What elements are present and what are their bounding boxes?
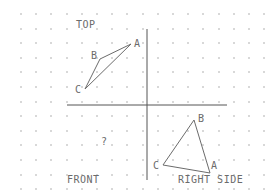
grid-dot [81,57,83,59]
grid-dot [142,188,144,190]
grid-dot [142,130,144,132]
grid-dot [142,13,144,15]
top-vertex-label-a: A [134,39,140,49]
grid-dot [126,115,128,117]
grid-dot [248,115,250,117]
grid-dot [35,71,37,73]
grid-dot [263,71,265,73]
grid-dot [172,71,174,73]
top-view-label: TOP [76,20,96,30]
grid-dot [157,86,159,88]
grid-dot [111,159,113,161]
grid-dot [157,101,159,103]
grid-dot [96,144,98,146]
grid-dot [142,159,144,161]
grid-dot [263,144,265,146]
grid-dot [172,86,174,88]
grid-dot [218,101,220,103]
grid-dot [248,188,250,190]
grid-dot [111,188,113,190]
grid-dot [233,13,235,15]
grid-dot [218,86,220,88]
grid-dot [248,28,250,30]
grid-dot [233,130,235,132]
grid-dot [111,130,113,132]
grid-dot [202,71,204,73]
grid-dot [187,144,189,146]
grid-dot [50,57,52,59]
grid-dot [35,188,37,190]
grid-dot [35,42,37,44]
grid-dot [248,86,250,88]
grid-dot [20,13,22,15]
grid-dot [20,174,22,176]
grid-dot [218,57,220,59]
grid-dot [233,159,235,161]
grid-dot [142,28,144,30]
grid-dot [50,144,52,146]
grid-dot [96,188,98,190]
grid-dot [218,42,220,44]
grid-dot [157,130,159,132]
grid-dot [50,86,52,88]
grid-dot [111,13,113,15]
grid-dot [126,101,128,103]
grid-dot [233,144,235,146]
grid-dot [126,71,128,73]
grid-dot [96,86,98,88]
grid-dot [66,188,68,190]
grid-dot [248,144,250,146]
top-vertex-label-c: C [75,85,81,95]
grid-dot [233,115,235,117]
grid-dot [187,188,189,190]
grid-dot [111,101,113,103]
grid-dot [202,86,204,88]
grid-dot [126,174,128,176]
grid-dot [172,101,174,103]
grid-dot [111,57,113,59]
front-view-label: FRONT [67,175,100,185]
grid-dot [126,86,128,88]
grid-dot [81,13,83,15]
grid-dot [142,174,144,176]
grid-dot [187,159,189,161]
grid-dot [142,115,144,117]
grid-dot [35,86,37,88]
grid-dot [263,86,265,88]
grid-dot [157,144,159,146]
grid-dot [111,115,113,117]
grid-dot [66,71,68,73]
grid-dot [66,144,68,146]
grid-dot [248,57,250,59]
grid-dot [142,101,144,103]
grid-dot [66,130,68,132]
grid-dot [187,28,189,30]
grid-dot [218,130,220,132]
drawing-canvas [0,0,277,191]
grid-dot [20,86,22,88]
grid-dot [20,159,22,161]
grid-dot [248,130,250,132]
grid-dot [248,13,250,15]
grid-dot [263,57,265,59]
grid-dot [81,86,83,88]
grid-dot [126,188,128,190]
grid-dot [35,101,37,103]
grid-dot [248,71,250,73]
grid-dot [142,57,144,59]
grid-dot [66,159,68,161]
grid-dot [218,71,220,73]
grid-dot [218,28,220,30]
grid-dot [126,42,128,44]
grid-dot [202,188,204,190]
grid-dot [81,115,83,117]
grid-dot [172,13,174,15]
grid-dot [126,13,128,15]
grid-dot [96,101,98,103]
grid-dot [50,115,52,117]
grid-dot [263,13,265,15]
grid-dot [20,42,22,44]
grid-dot [81,71,83,73]
grid-dot [157,13,159,15]
grid-dot [172,144,174,146]
